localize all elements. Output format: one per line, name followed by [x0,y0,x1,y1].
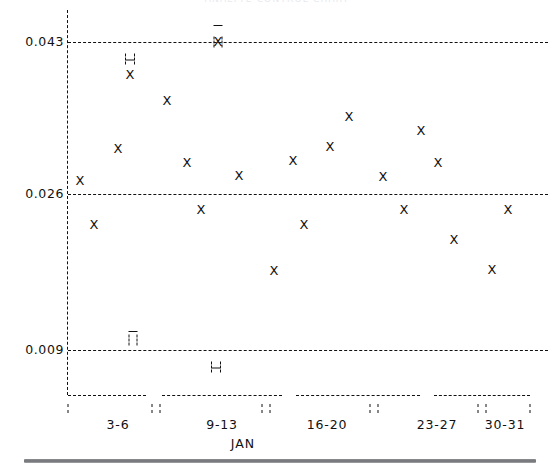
x-tick [378,404,379,413]
data-point-marker: X [90,218,99,231]
data-point-marker: X [488,263,497,276]
x-tick [262,404,263,413]
x-tick [370,404,371,413]
data-point-marker: X [345,110,354,123]
data-point-marker: X [76,174,85,187]
data-point-marker: X [450,233,459,246]
limit-flag-marker [129,330,138,349]
x-axis-segment [162,395,282,396]
limit-flag-marker [125,49,135,68]
y-axis-line [67,10,68,395]
reference-line-0.043 [68,42,548,43]
x-tick [68,404,69,413]
limit-flag-cap [129,331,138,332]
x-axis-segment [296,395,420,396]
bottom-divider [24,459,536,463]
x-category-label-1: 9-13 [206,418,238,431]
x-tick [486,404,487,413]
data-point-marker: X [379,170,388,183]
control-chart: ANALYTE CONTROL CHART 0.043 0.026 0.009 … [0,0,554,471]
y-tick-label-2: 0.009 [0,344,64,356]
data-point-marker: X [183,156,192,169]
reference-line-0.009 [68,350,548,351]
x-tick [152,404,153,413]
data-point-marker: X [235,169,244,182]
y-tick-label-0: 0.043 [0,36,64,48]
data-point-marker: X [126,68,135,81]
data-point-marker: X [270,264,279,277]
data-point-marker: X [300,218,309,231]
data-point-marker: X [197,203,206,216]
x-category-label-2: 16-20 [307,418,347,431]
limit-flag-cap [214,25,223,26]
y-tick-label-1: 0.026 [0,188,64,200]
data-point-marker: X [114,142,123,155]
data-point-marker: X [434,156,443,169]
data-point-marker: X [417,124,426,137]
reference-line-0.026 [68,194,548,195]
data-point-marker: X [504,203,513,216]
x-category-label-0: 3-6 [107,418,130,431]
data-point-marker: X [214,35,223,48]
x-axis-title: JAN [231,436,255,451]
data-point-marker: X [289,154,298,167]
data-point-marker: X [163,94,172,107]
x-axis-segment [434,395,530,396]
x-tick [160,404,161,413]
x-tick [270,404,271,413]
x-axis-segment [68,395,146,396]
x-category-label-3: 23-27 [417,418,457,431]
data-point-marker: X [400,203,409,216]
limit-flag-marker [211,357,221,376]
x-tick [478,404,479,413]
x-tick [530,404,531,413]
data-point-marker: X [326,140,335,153]
x-category-label-4: 30-31 [485,418,525,431]
plot-area: 0.043 0.026 0.009 XXXXXXXXXXXXXXXXXXXXX [0,0,554,471]
